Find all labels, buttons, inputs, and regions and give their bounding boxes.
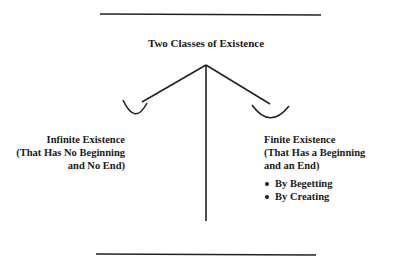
label-line: Finite Existence [264, 133, 365, 146]
list-item: By Begetting [264, 177, 365, 190]
label-line: (That Has No Beginning [16, 146, 125, 159]
left-branch-line [142, 65, 206, 102]
label-line: and No End) [16, 159, 125, 172]
top-rule [100, 14, 321, 15]
bullet-icon [265, 182, 269, 186]
right-branch-line [206, 65, 270, 104]
infinite-existence-label: Infinite Existence (That Has No Beginnin… [16, 133, 125, 172]
finite-existence-label: Finite Existence (That Has a Beginning a… [264, 133, 365, 203]
label-line: and an End) [264, 159, 365, 172]
right-cup-arc [252, 105, 289, 118]
finite-methods-list: By Begetting By Creating [264, 177, 365, 203]
bottom-rule [96, 254, 316, 255]
list-item: By Creating [264, 190, 365, 203]
label-line: (That Has a Beginning [264, 146, 365, 159]
label-line: Infinite Existence [16, 133, 125, 146]
bullet-icon [265, 195, 269, 199]
diagram-title: Two Classes of Existence [0, 37, 397, 50]
